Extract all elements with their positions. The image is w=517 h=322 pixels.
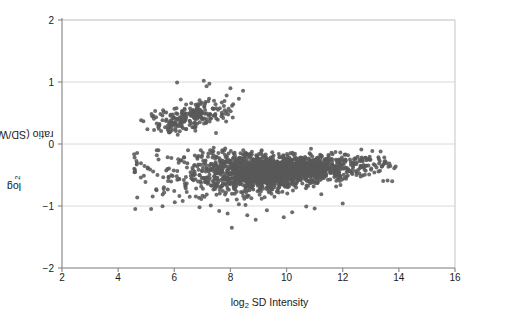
data-point — [152, 128, 156, 132]
data-point — [282, 177, 286, 181]
data-point — [195, 122, 199, 126]
data-point — [200, 101, 204, 105]
data-point — [204, 178, 208, 182]
data-point — [196, 163, 200, 167]
data-point — [218, 171, 222, 175]
data-point — [230, 104, 234, 108]
data-point — [213, 177, 217, 181]
data-point — [318, 158, 322, 162]
data-point — [377, 161, 381, 165]
data-point — [228, 86, 232, 90]
data-point — [270, 150, 274, 154]
data-point — [185, 190, 189, 194]
data-point — [239, 164, 243, 168]
data-point — [258, 193, 262, 197]
data-point — [166, 188, 170, 192]
data-point — [257, 175, 261, 179]
data-point — [191, 168, 195, 172]
data-point — [292, 167, 296, 171]
data-point — [208, 148, 212, 152]
data-point — [200, 169, 204, 173]
data-point — [237, 202, 241, 206]
data-point — [319, 192, 323, 196]
data-point — [208, 119, 212, 123]
data-point — [172, 169, 176, 173]
data-point — [285, 154, 289, 158]
data-point — [235, 164, 239, 168]
data-point — [226, 211, 230, 215]
data-point — [229, 149, 233, 153]
data-point — [158, 112, 162, 116]
data-point — [245, 213, 249, 217]
data-point — [222, 104, 226, 108]
data-point — [245, 194, 249, 198]
data-point — [177, 118, 181, 122]
data-point — [308, 171, 312, 175]
data-point — [205, 192, 209, 196]
data-point — [343, 153, 347, 157]
data-point — [155, 153, 159, 157]
data-point — [215, 155, 219, 159]
data-point — [346, 173, 350, 177]
data-point — [203, 112, 207, 116]
data-point — [213, 172, 217, 176]
data-point — [214, 102, 218, 106]
data-point — [381, 179, 385, 183]
data-point — [201, 187, 205, 191]
data-point — [230, 192, 234, 196]
data-point — [148, 168, 152, 172]
data-point — [223, 112, 227, 116]
data-point — [201, 166, 205, 170]
data-point — [304, 205, 308, 209]
data-point — [167, 175, 171, 179]
data-point — [386, 165, 390, 169]
data-point — [382, 156, 386, 160]
data-point — [173, 200, 177, 204]
data-point — [255, 155, 259, 159]
data-point — [220, 111, 224, 115]
data-point — [360, 157, 364, 161]
data-point — [292, 183, 296, 187]
data-point — [258, 171, 262, 175]
data-point — [319, 154, 323, 158]
data-point — [133, 207, 137, 211]
data-point — [154, 187, 158, 191]
data-point — [236, 167, 240, 171]
data-point — [194, 187, 198, 191]
data-point — [387, 161, 391, 165]
data-point — [280, 163, 284, 167]
data-point — [203, 160, 207, 164]
data-point — [204, 170, 208, 174]
data-point — [166, 155, 170, 159]
data-point — [133, 168, 137, 172]
data-point — [330, 164, 334, 168]
data-point — [262, 154, 266, 158]
data-point — [202, 104, 206, 108]
data-point — [194, 103, 198, 107]
data-points — [132, 79, 397, 230]
data-point — [379, 150, 383, 154]
data-point — [335, 170, 339, 174]
data-point — [263, 195, 267, 199]
data-point — [220, 101, 224, 105]
data-point — [181, 199, 185, 203]
data-point — [367, 172, 371, 176]
data-point — [169, 156, 173, 160]
data-point — [199, 148, 203, 152]
data-point — [300, 181, 304, 185]
data-point — [176, 133, 180, 137]
data-point — [135, 196, 139, 200]
data-point — [182, 160, 186, 164]
data-point — [303, 161, 307, 165]
data-point — [327, 159, 331, 163]
data-point — [264, 167, 268, 171]
data-point — [214, 167, 218, 171]
data-point — [378, 169, 382, 173]
data-point — [341, 202, 345, 206]
data-point — [220, 148, 224, 152]
data-point — [251, 178, 255, 182]
data-point — [261, 160, 265, 164]
data-point — [274, 172, 278, 176]
data-point — [182, 155, 186, 159]
plot-area — [0, 0, 517, 322]
